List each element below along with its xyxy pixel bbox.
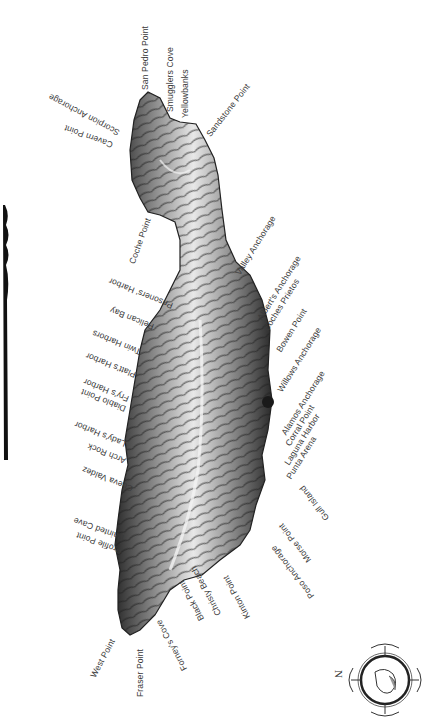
label-fraser-point: Fraser Point [136,649,145,697]
label-san-pedro-point: San Pedro Point [141,26,150,90]
scale-bar-icon [3,205,9,460]
label-smugglers-cove: Smugglers Cove [166,47,175,112]
north-indicator: N [333,670,345,678]
compass-rose-icon [349,644,421,716]
label-yellowbanks: Yellowbanks [181,69,190,118]
rock-outcrop [262,396,274,408]
island-shape [115,92,274,635]
